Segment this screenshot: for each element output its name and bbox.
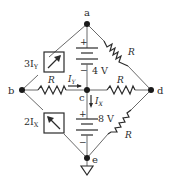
label-8v: 8 V: [98, 113, 114, 124]
plus-sign-8v: +: [79, 109, 87, 119]
node-b: [19, 87, 25, 93]
label-ix: IX: [94, 96, 104, 107]
label-iy: IY: [67, 74, 77, 85]
resistor-ad: [104, 41, 128, 66]
battery-4v: [76, 48, 98, 66]
node-label-a: a: [84, 7, 90, 18]
label-r-cd: R: [116, 75, 124, 85]
battery-8v: [76, 119, 98, 137]
node-label-b: b: [8, 85, 14, 96]
label-4v: 4 V: [92, 65, 108, 76]
minus-sign-4v: −: [80, 65, 88, 75]
current-arrow-ix: [89, 95, 93, 108]
node-c: [84, 87, 90, 93]
resistor-bc: [38, 86, 66, 94]
dependent-source-2ix: [44, 113, 64, 133]
label-r-de: R: [124, 130, 132, 140]
minus-sign-8v: −: [79, 137, 87, 147]
node-a: [84, 21, 90, 27]
node-label-d: d: [157, 85, 164, 96]
node-e: [84, 155, 90, 161]
plus-sign-4v: +: [80, 37, 88, 47]
resistor-cd: [107, 86, 135, 94]
label-2ix: 2IX: [24, 116, 39, 129]
node-d: [148, 87, 154, 93]
node-label-c: c: [79, 92, 85, 103]
ground-icon: [81, 166, 93, 175]
label-r-ad: R: [127, 47, 135, 57]
dependent-source-3iy: [44, 52, 64, 72]
label-r-bc: R: [47, 75, 55, 85]
node-label-e: e: [92, 154, 98, 165]
label-3iy: 3IY: [24, 58, 39, 71]
circuit-diagram: a b c d e + − 4 V + − 8 V R R R R 3IY 2I…: [0, 0, 172, 195]
